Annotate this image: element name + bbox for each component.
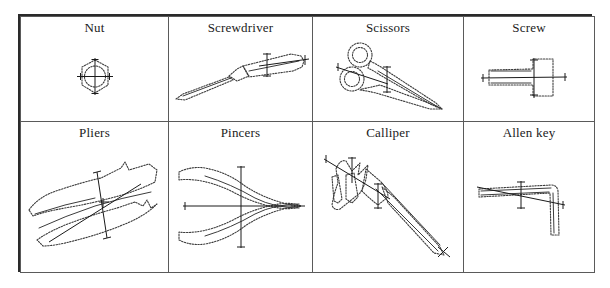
- tool-sketch-table: Nut: [18, 14, 592, 272]
- cell-pliers: Pliers: [21, 122, 169, 273]
- pliers-sketch-icon: [21, 140, 168, 272]
- cell-screw: Screw: [464, 17, 595, 122]
- cell-scissors: Scissors: [313, 17, 464, 122]
- cell-label-pliers: Pliers: [79, 122, 110, 140]
- cell-screwdriver: Screwdriver: [169, 17, 313, 122]
- cell-pincers: Pincers: [169, 122, 313, 273]
- tool-grid: Nut: [20, 16, 595, 273]
- cell-label-screwdriver: Screwdriver: [208, 17, 274, 35]
- calliper-sketch-icon: [313, 140, 463, 272]
- pincers-sketch-icon: [169, 140, 312, 272]
- screw-sketch-icon: [464, 35, 594, 121]
- allen-key-sketch-icon: [464, 140, 594, 272]
- cell-label-pincers: Pincers: [221, 122, 261, 140]
- cell-allen-key: Allen key: [464, 122, 595, 273]
- table-row: Nut: [21, 17, 595, 122]
- cell-label-screw: Screw: [512, 17, 546, 35]
- cell-label-allen-key: Allen key: [503, 122, 556, 140]
- screwdriver-sketch-icon: [169, 35, 312, 121]
- cell-calliper: Calliper: [313, 122, 464, 273]
- scissors-sketch-icon: [313, 35, 463, 121]
- cell-nut: Nut: [21, 17, 169, 122]
- nut-sketch-icon: [21, 35, 168, 121]
- cell-label-calliper: Calliper: [366, 122, 409, 140]
- cell-label-scissors: Scissors: [366, 17, 410, 35]
- cell-label-nut: Nut: [84, 17, 104, 35]
- table-row: Pliers: [21, 122, 595, 273]
